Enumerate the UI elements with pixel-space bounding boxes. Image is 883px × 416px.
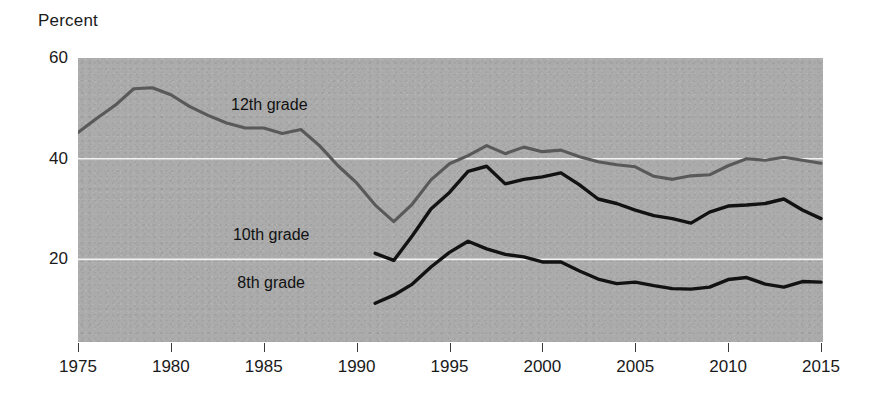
y-axis-title: Percent xyxy=(38,11,98,31)
x-tick-label-1980: 1980 xyxy=(141,357,201,377)
x-tick-label-1985: 1985 xyxy=(234,357,294,377)
x-tick-label-2005: 2005 xyxy=(605,357,665,377)
x-tick-label-2010: 2010 xyxy=(698,357,758,377)
series-line-10th-grade xyxy=(375,166,821,260)
x-tick-mark-1985 xyxy=(264,343,265,352)
plot-area: 12th grade10th grade8th grade xyxy=(78,58,823,342)
x-tick-label-1995: 1995 xyxy=(420,357,480,377)
x-tick-mark-2010 xyxy=(728,343,729,352)
y-tick-label-40: 40 xyxy=(26,149,68,169)
y-tick-label-20: 20 xyxy=(26,249,68,269)
x-tick-label-2000: 2000 xyxy=(512,357,572,377)
x-tick-label-1975: 1975 xyxy=(48,357,108,377)
x-tick-label-2015: 2015 xyxy=(791,357,851,377)
x-tick-mark-1995 xyxy=(450,343,451,352)
x-tick-mark-2005 xyxy=(635,343,636,352)
x-tick-mark-2015 xyxy=(821,343,822,352)
y-tick-label-60: 60 xyxy=(26,48,68,68)
x-tick-mark-1990 xyxy=(357,343,358,352)
x-tick-label-1990: 1990 xyxy=(327,357,387,377)
series-line-12th-grade xyxy=(78,88,821,222)
x-tick-mark-1975 xyxy=(78,343,79,352)
series-label-10th-grade: 10th grade xyxy=(233,226,310,244)
series-label-12th-grade: 12th grade xyxy=(231,96,308,114)
x-tick-mark-2000 xyxy=(542,343,543,352)
chart-figure: Percent 12th grade10th grade8th grade 20… xyxy=(0,0,883,416)
series-canvas xyxy=(78,58,823,342)
x-tick-mark-1980 xyxy=(171,343,172,352)
series-label-8th-grade: 8th grade xyxy=(237,274,305,292)
series-line-8th-grade xyxy=(375,241,821,303)
